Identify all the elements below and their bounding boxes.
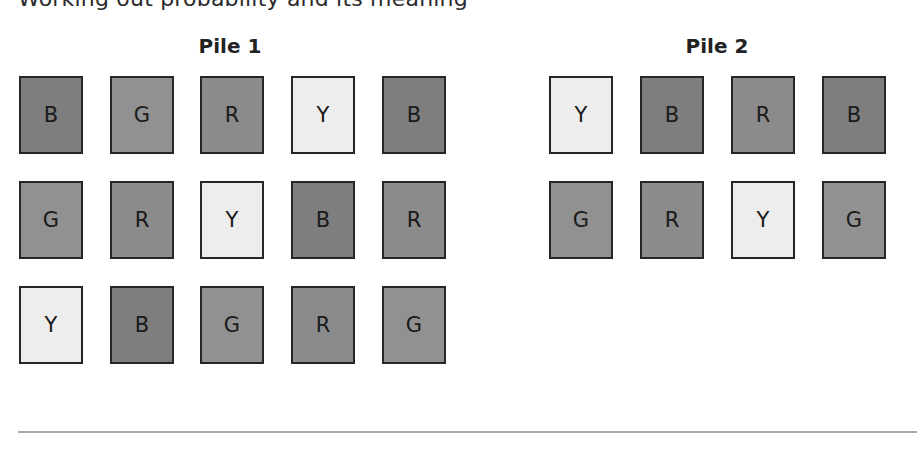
card: B <box>822 76 886 154</box>
card: G <box>200 286 264 364</box>
card: B <box>291 181 355 259</box>
card: R <box>291 286 355 364</box>
card: Y <box>200 181 264 259</box>
card: Y <box>291 76 355 154</box>
cut-off-heading-text: Working out probability and its meaning <box>18 0 468 11</box>
pile-2-label: Pile 2 <box>667 34 767 58</box>
card: R <box>382 181 446 259</box>
card: Y <box>731 181 795 259</box>
card: G <box>19 181 83 259</box>
card: R <box>200 76 264 154</box>
card: B <box>640 76 704 154</box>
card: R <box>731 76 795 154</box>
card: G <box>110 76 174 154</box>
card: B <box>382 76 446 154</box>
pile-1-label: Pile 1 <box>180 34 280 58</box>
card: B <box>110 286 174 364</box>
card: R <box>110 181 174 259</box>
card: G <box>822 181 886 259</box>
card: B <box>19 76 83 154</box>
card: Y <box>19 286 83 364</box>
card: Y <box>549 76 613 154</box>
answer-line-divider <box>18 431 917 433</box>
card: R <box>640 181 704 259</box>
card: G <box>382 286 446 364</box>
card: G <box>549 181 613 259</box>
